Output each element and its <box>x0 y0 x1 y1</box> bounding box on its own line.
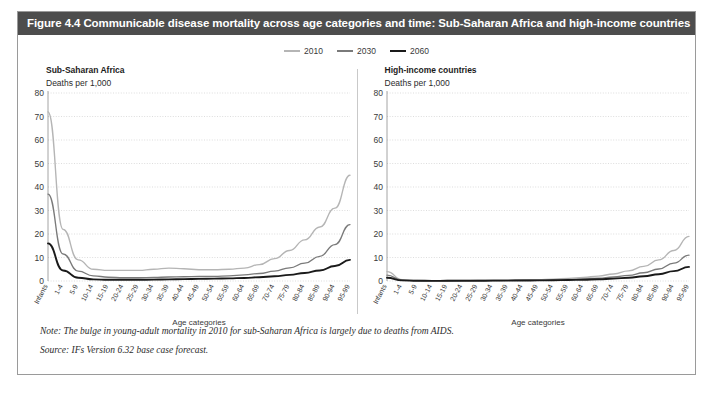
x-axis-tick-label: 90-94 <box>660 283 675 302</box>
x-axis-tick-label: 85-89 <box>306 283 321 302</box>
legend-swatch-2030 <box>337 50 353 52</box>
x-axis-tick-label: 70-74 <box>261 283 276 302</box>
legend-item-2010: 2010 <box>284 47 323 56</box>
x-axis-tick-label: 60-64 <box>231 283 246 302</box>
y-axis-tick-label: 40 <box>35 182 45 192</box>
x-axis-tick-label: 55-59 <box>215 283 230 302</box>
figure-title: Figure 4.4 Communicable disease mortalit… <box>18 12 695 35</box>
x-axis-tick-label: 50-54 <box>200 283 215 302</box>
note-text: Note: The bulge in young-adult mortality… <box>40 326 695 336</box>
series-line-2060 <box>387 267 689 281</box>
y-axis-tick-label: 70 <box>373 112 383 122</box>
legend-label-2010: 2010 <box>304 47 323 56</box>
x-axis-tick-label: Infants <box>33 283 49 305</box>
x-axis-tick-label: 30-34 <box>140 283 155 302</box>
x-axis-tick-label: 60-64 <box>569 283 584 302</box>
x-axis-tick-label: 35-39 <box>494 283 509 302</box>
y-axis-tick-label: 70 <box>35 112 45 122</box>
x-axis-tick-label: 45-49 <box>524 283 539 302</box>
x-axis-tick-label: Infants <box>371 283 387 305</box>
x-axis-tick-label: 65-69 <box>584 283 599 302</box>
legend-swatch-2010 <box>284 50 300 52</box>
x-axis-tick-label: 45-49 <box>185 283 200 302</box>
x-axis-tick-label: 10-14 <box>80 283 95 302</box>
chart-panel-high-income-countries: High-income countries Deaths per 1,000 0… <box>357 63 696 335</box>
legend-label-2060: 2060 <box>410 47 429 56</box>
x-axis-tick-label: 20-24 <box>110 283 125 302</box>
line-chart-left: 01020304050607080Infants1-45-910-1415-19… <box>18 63 357 335</box>
y-axis-tick-label: 80 <box>35 88 45 98</box>
legend-label-2030: 2030 <box>357 47 376 56</box>
series-line-2060 <box>48 243 350 279</box>
y-axis-tick-label: 20 <box>35 229 45 239</box>
y-axis-tick-label: 50 <box>373 159 383 169</box>
x-axis-tick-label: 10-14 <box>418 283 433 302</box>
x-axis-tick-label: 75-79 <box>276 283 291 302</box>
x-axis-tick-label: 50-54 <box>539 283 554 302</box>
chart-panels: Sub-Saharan Africa Deaths per 1,000 0102… <box>18 63 695 335</box>
x-axis-tick-label: 1-4 <box>53 283 64 295</box>
x-axis-tick-label: 5-9 <box>407 283 418 295</box>
x-axis-tick-label: 85-89 <box>645 283 660 302</box>
y-axis-tick-label: 10 <box>35 253 45 263</box>
x-axis-tick-label: 95-99 <box>336 283 351 302</box>
x-axis-tick-label: 90-94 <box>321 283 336 302</box>
source-text: Source: IFs Version 6.32 base case forec… <box>40 345 695 355</box>
y-axis-tick-label: 50 <box>35 159 45 169</box>
x-axis-tick-label: 35-39 <box>155 283 170 302</box>
x-axis-tick-label: 55-59 <box>554 283 569 302</box>
x-axis-tick-label: 30-34 <box>478 283 493 302</box>
series-line-2030 <box>48 194 350 278</box>
y-axis-tick-label: 30 <box>373 206 383 216</box>
x-axis-tick-label: 40-44 <box>509 283 524 302</box>
x-axis-tick-label: 20-24 <box>448 283 463 302</box>
y-axis-tick-label: 10 <box>373 253 383 263</box>
y-axis-tick-label: 60 <box>35 135 45 145</box>
x-axis-tick-label: 15-19 <box>95 283 110 302</box>
x-axis-tick-label: 75-79 <box>614 283 629 302</box>
x-axis-tick-label: 95-99 <box>675 283 690 302</box>
x-axis-tick-label: 15-19 <box>433 283 448 302</box>
legend: 2010 2030 2060 <box>18 39 695 63</box>
footnotes: Note: The bulge in young-adult mortality… <box>18 326 695 374</box>
series-line-2010 <box>387 236 689 280</box>
y-axis-tick-label: 80 <box>373 88 383 98</box>
legend-swatch-2060 <box>390 50 406 52</box>
series-line-2010 <box>48 112 350 271</box>
figure-container: Figure 4.4 Communicable disease mortalit… <box>17 11 696 375</box>
y-axis-tick-label: 30 <box>35 206 45 216</box>
x-axis-tick-label: 40-44 <box>170 283 185 302</box>
x-axis-tick-label: 5-9 <box>68 283 79 295</box>
y-axis-tick-label: 40 <box>373 182 383 192</box>
x-axis-tick-label: 25-29 <box>125 283 140 302</box>
x-axis-tick-label: 70-74 <box>599 283 614 302</box>
legend-item-2030: 2030 <box>337 47 376 56</box>
x-axis-tick-label: 25-29 <box>463 283 478 302</box>
x-axis-tick-label: 65-69 <box>246 283 261 302</box>
y-axis-tick-label: 20 <box>373 229 383 239</box>
y-axis-tick-label: 60 <box>373 135 383 145</box>
x-axis-tick-label: 80-84 <box>291 283 306 302</box>
x-axis-tick-label: 1-4 <box>392 283 403 295</box>
chart-panel-sub-saharan-africa: Sub-Saharan Africa Deaths per 1,000 0102… <box>18 63 357 335</box>
line-chart-right: 01020304050607080Infants1-45-910-1415-19… <box>357 63 696 335</box>
legend-item-2060: 2060 <box>390 47 429 56</box>
x-axis-tick-label: 80-84 <box>629 283 644 302</box>
